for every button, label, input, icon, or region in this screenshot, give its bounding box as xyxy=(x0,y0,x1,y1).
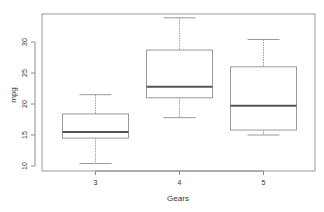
boxes xyxy=(63,18,297,164)
y-axis: 1015202530 xyxy=(21,38,35,170)
box-gear-5 xyxy=(231,40,297,135)
y-tick-label: 10 xyxy=(21,162,28,170)
y-tick-label: 20 xyxy=(21,100,28,108)
x-tick-label: 4 xyxy=(178,179,182,186)
x-axis-label: Gears xyxy=(167,194,189,203)
x-axis: 345 xyxy=(94,171,266,186)
y-tick-label: 15 xyxy=(21,131,28,139)
x-tick-label: 3 xyxy=(94,179,98,186)
box-plot: 1015202530 345 mpg Gears xyxy=(0,0,324,212)
iqr-box xyxy=(231,67,297,130)
x-tick-label: 5 xyxy=(262,179,266,186)
iqr-box xyxy=(147,50,213,98)
y-tick-label: 30 xyxy=(21,38,28,46)
y-axis-label: mpg xyxy=(9,87,18,103)
box-gear-3 xyxy=(63,95,129,164)
iqr-box xyxy=(63,114,129,138)
box-gear-4 xyxy=(147,18,213,118)
y-tick-label: 25 xyxy=(21,69,28,77)
